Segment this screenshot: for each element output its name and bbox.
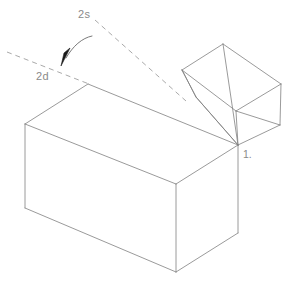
label-destination-axis: 2d: [36, 70, 49, 82]
source-ray-dashed-line: [95, 20, 186, 101]
lid-box-rim-edge-a: [182, 44, 223, 70]
lid-box-rim-edge-b: [223, 44, 281, 84]
diagram-canvas: 2s 2d 1.: [0, 0, 295, 288]
lid-box: [182, 44, 281, 145]
main-box-edge-top-right: [176, 145, 238, 184]
main-box: [25, 84, 238, 272]
main-box-edge-bottom-left: [25, 208, 176, 272]
rotation-arrowhead-icon: [61, 48, 70, 66]
lid-box-base-edge-d: [182, 70, 196, 97]
technical-diagram: 2s 2d 1.: [0, 0, 295, 288]
label-hinge-vertex: 1.: [243, 148, 252, 160]
main-box-edge-top-front: [88, 84, 238, 145]
rotation-arc: [61, 36, 92, 66]
lid-box-rim-edge-c: [236, 84, 281, 111]
label-source-axis: 2s: [78, 8, 90, 20]
lid-box-base-edge-c: [236, 111, 280, 125]
lid-box-base-edge-b: [238, 125, 280, 145]
dashed-rays: [7, 20, 186, 101]
main-box-edge-top-left: [25, 84, 88, 124]
main-box-edge-bottom-right: [176, 233, 238, 272]
main-box-edge-top-back: [25, 124, 176, 184]
lid-box-side-edge-right: [280, 84, 281, 125]
rotation-arc-curve: [66, 36, 92, 58]
